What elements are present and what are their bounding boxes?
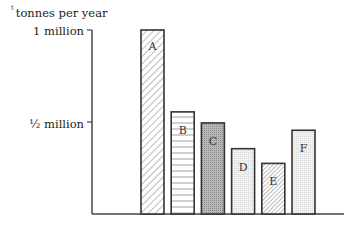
bar-label-e: E — [269, 175, 277, 188]
bar-label-d: D — [239, 161, 248, 174]
bar-label-a: A — [148, 40, 158, 53]
bar-d — [232, 149, 255, 214]
bar-a — [141, 30, 164, 214]
bar-label-c: C — [209, 135, 217, 148]
bar-label-b: B — [179, 124, 187, 137]
bar-label-f: F — [300, 142, 308, 155]
bar-e — [262, 163, 285, 214]
bar-chart: ABCDEF — [0, 0, 356, 233]
